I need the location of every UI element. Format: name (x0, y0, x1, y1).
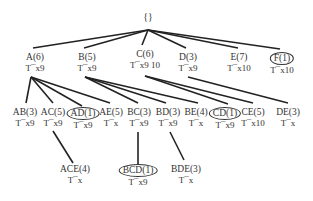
node-CD: CD(1) T¯x9 (209, 107, 241, 131)
node-label: BE(4) (182, 107, 209, 118)
node-sub: T¯x10 (270, 65, 294, 76)
node-sub: T¯x10 (239, 118, 266, 129)
node-label-circled: CD(1) (209, 107, 241, 120)
node-label-circled: F(1) (270, 52, 294, 65)
node-F: F(1) T¯x10 (270, 52, 294, 76)
node-sub: T¯x9 (177, 63, 199, 74)
node-label: B(5) (76, 52, 97, 63)
node-AB: AB(3) T¯x9 (11, 107, 39, 129)
node-BC: BC(3) T¯x9 (125, 107, 153, 129)
node-label: BD(3) (154, 107, 182, 118)
node-sub: T¯x9 (209, 120, 241, 131)
node-A: A(6) T¯x9 (24, 52, 46, 74)
edge-AC-ACE (53, 131, 73, 163)
root-label: {} (141, 11, 155, 22)
node-label: CE(5) (239, 107, 266, 118)
node-sub: T¯x9 (11, 118, 39, 129)
node-sub: T¯x9 (39, 118, 67, 129)
edge-BD-BDE (170, 132, 184, 160)
node-BDE: BDE(3) T¯x (169, 164, 203, 186)
node-B: B(5) T¯x9 (76, 52, 97, 74)
node-BE: BE(4) T¯x (182, 107, 209, 129)
node-label: BC(3) (125, 107, 153, 118)
node-sub: T¯x9 (154, 118, 182, 129)
edge-root-A (33, 30, 148, 48)
edge-B-BC (85, 77, 138, 103)
node-sub: T¯x (97, 118, 125, 129)
node-label: ACE(4) (58, 164, 92, 175)
node-sub: T¯x (169, 175, 203, 186)
node-label: DE(3) (274, 107, 302, 118)
node-sub: T¯x9 (67, 120, 100, 131)
node-sub: T¯x (182, 118, 209, 129)
node-label-circled: AD(1) (67, 107, 100, 120)
node-label: BDE(3) (169, 164, 203, 175)
itemset-tree-diagram: {} A(6) T¯x9 B(5) T¯x9 C(6) T¯x9 10 D(3)… (0, 0, 313, 201)
node-AE: AE(5) T¯x (97, 107, 125, 129)
node-BD: BD(3) T¯x9 (154, 107, 182, 129)
node-E: E(7) T¯x10 (227, 52, 251, 74)
node-label: AB(3) (11, 107, 39, 118)
node-label: C(6) (134, 49, 155, 60)
root-node: {} (141, 11, 155, 22)
node-AD: AD(1) T¯x9 (67, 107, 100, 131)
node-sub: T¯x9 (76, 63, 97, 74)
node-label: AE(5) (97, 107, 125, 118)
node-sub: T¯x (274, 118, 302, 129)
node-label: AC(5) (39, 107, 67, 118)
node-label: A(6) (24, 52, 46, 63)
node-DE: DE(3) T¯x (274, 107, 302, 129)
node-ACE: ACE(4) T¯x (58, 164, 92, 186)
node-sub: T¯x9 (119, 177, 158, 188)
node-CE: CE(5) T¯x10 (239, 107, 266, 129)
node-sub: T¯x (58, 175, 92, 186)
node-D: D(3) T¯x9 (177, 52, 199, 74)
edge-B-BE (85, 77, 198, 103)
node-C: C(6) T¯x9 10 (130, 49, 160, 71)
node-AC: AC(5) T¯x9 (39, 107, 67, 129)
node-label-circled: BCD(1) (119, 164, 158, 177)
node-sub: T¯x9 10 (130, 60, 160, 71)
node-sub: T¯x10 (227, 63, 251, 74)
node-sub: T¯x9 (125, 118, 153, 129)
node-sub: T¯x9 (24, 63, 46, 74)
node-BCD: BCD(1) T¯x9 (119, 164, 158, 188)
node-label: D(3) (177, 52, 199, 63)
node-label: E(7) (229, 52, 250, 63)
edge-A-AB (26, 77, 31, 103)
